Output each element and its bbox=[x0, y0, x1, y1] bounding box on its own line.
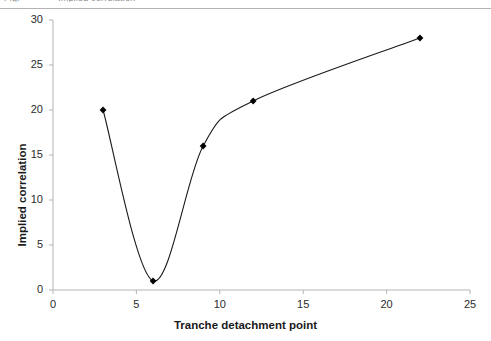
data-point-marker bbox=[100, 107, 107, 114]
data-point-marker bbox=[200, 143, 207, 150]
plot-area bbox=[0, 0, 491, 341]
data-point-marker bbox=[417, 35, 424, 42]
data-point-marker bbox=[250, 98, 257, 105]
series-line-implied-correlation bbox=[103, 38, 420, 281]
series-markers-implied-correlation bbox=[100, 35, 424, 285]
axes-group bbox=[49, 20, 470, 294]
figure-container: Fig. Implied correlation Tranche detachm… bbox=[0, 0, 491, 341]
